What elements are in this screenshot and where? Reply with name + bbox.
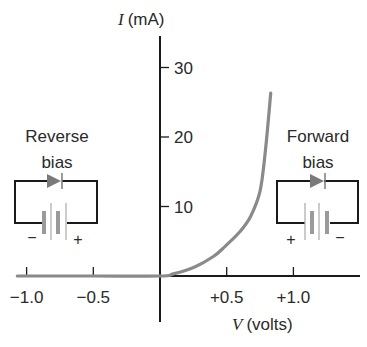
diode-iv-diagram: −1.0−0.5+0.5+1.0102030 I(mA) V(volts) Re… (0, 0, 367, 347)
y-tick-label: 30 (174, 59, 193, 78)
forward-bias-circuit-icon: + − (277, 173, 358, 248)
reverse-bias-annotation: Reverse bias − + (15, 127, 97, 248)
reverse-label-line2: bias (41, 153, 72, 172)
x-axis-title: V(volts) (232, 315, 293, 334)
battery-icon (305, 203, 329, 240)
iv-curve (17, 93, 270, 276)
forward-label-line2: bias (302, 153, 333, 172)
x-tick-label: −1.0 (10, 288, 44, 307)
diode-icon (310, 173, 325, 189)
diode-icon (47, 173, 62, 189)
x-tick-label: +0.5 (210, 288, 244, 307)
reverse-label-line1: Reverse (25, 127, 88, 146)
reverse-bias-circuit-icon: − + (15, 173, 97, 248)
y-axis-title: I(mA) (117, 10, 165, 29)
minus-sign: − (335, 229, 344, 246)
forward-bias-annotation: Forward bias + − (277, 127, 358, 248)
forward-label-line1: Forward (287, 127, 349, 146)
minus-sign: − (27, 229, 36, 246)
x-tick-label: +1.0 (277, 288, 311, 307)
y-tick-label: 10 (174, 198, 193, 217)
battery-icon (42, 203, 66, 240)
y-tick-label: 20 (174, 128, 193, 147)
plus-sign: + (286, 231, 295, 248)
x-tick-label: −0.5 (77, 288, 111, 307)
plus-sign: + (73, 231, 82, 248)
